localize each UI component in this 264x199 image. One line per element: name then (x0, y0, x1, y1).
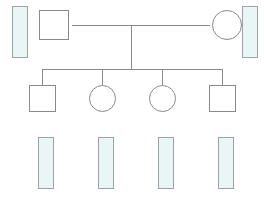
gel-scale-label (232, 2, 241, 10)
gel-child-3[interactable] (148, 133, 174, 193)
gel-scale-label (2, 54, 11, 62)
gel-scale-label (28, 133, 37, 141)
gel-scale-label (148, 164, 157, 172)
gel-scale-label (2, 44, 11, 52)
gel-scale-label (148, 154, 157, 162)
sibling-drop-2 (102, 69, 103, 85)
gel-scale-label (148, 143, 157, 151)
gel-scale-label (88, 175, 97, 183)
gel-scale-label (208, 133, 217, 141)
pedigree-symbol-child-1[interactable] (29, 85, 56, 112)
gel-scale-label (2, 2, 11, 10)
gel-child-2-scale (88, 133, 97, 193)
gel-scale-label (28, 175, 37, 183)
gel-father[interactable] (2, 2, 28, 62)
sibling-drop-1 (42, 69, 43, 85)
gel-scale-label (2, 23, 11, 31)
pedigree-symbol-father[interactable] (39, 10, 69, 40)
gel-scale-label (232, 33, 241, 41)
gel-mother-lane[interactable] (242, 6, 258, 58)
sibling-drop-4 (222, 69, 223, 85)
descent-line-vertical (131, 25, 132, 69)
gel-child-2-lane[interactable] (98, 137, 114, 189)
gel-mother-scale (232, 2, 241, 62)
gel-scale-label (88, 185, 97, 193)
gel-child-4-scale (208, 133, 217, 193)
marriage-line (72, 25, 210, 26)
gel-scale-label (2, 33, 11, 41)
gel-scale-label (208, 175, 217, 183)
gel-father-scale (2, 2, 11, 62)
gel-scale-label (2, 12, 11, 20)
gel-scale-label (28, 143, 37, 151)
gel-scale-label (208, 185, 217, 193)
gel-scale-label (148, 185, 157, 193)
gel-scale-label (28, 164, 37, 172)
gel-child-3-scale (148, 133, 157, 193)
gel-scale-label (232, 12, 241, 20)
gel-scale-label (232, 54, 241, 62)
gel-child-4[interactable] (208, 133, 234, 193)
gel-child-4-lane[interactable] (218, 137, 234, 189)
pedigree-symbol-child-3[interactable] (149, 85, 176, 112)
gel-scale-label (208, 143, 217, 151)
gel-mother[interactable] (232, 2, 258, 62)
gel-scale-label (88, 133, 97, 141)
sibship-line (42, 69, 222, 70)
gel-child-2[interactable] (88, 133, 114, 193)
gel-scale-label (88, 164, 97, 172)
gel-scale-label (148, 175, 157, 183)
gel-scale-label (88, 143, 97, 151)
gel-child-3-lane[interactable] (158, 137, 174, 189)
pedigree-symbol-child-2[interactable] (89, 85, 116, 112)
gel-scale-label (88, 154, 97, 162)
gel-scale-label (208, 154, 217, 162)
sibling-drop-3 (162, 69, 163, 85)
gel-scale-label (28, 185, 37, 193)
gel-scale-label (232, 44, 241, 52)
gel-child-1[interactable] (28, 133, 54, 193)
gel-father-lane[interactable] (12, 6, 28, 58)
gel-scale-label (232, 23, 241, 31)
gel-child-1-scale (28, 133, 37, 193)
gel-scale-label (28, 154, 37, 162)
pedigree-symbol-child-4[interactable] (209, 85, 236, 112)
gel-scale-label (208, 164, 217, 172)
gel-child-1-lane[interactable] (38, 137, 54, 189)
gel-scale-label (148, 133, 157, 141)
